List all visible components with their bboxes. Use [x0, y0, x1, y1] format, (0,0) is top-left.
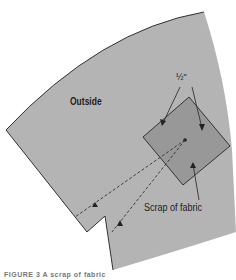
figure-caption: FIGURE 3 A scrap of fabric — [4, 271, 106, 278]
seam-allowance-label: ½" — [176, 72, 187, 82]
scrap-of-fabric-label: Scrap of fabric — [144, 202, 202, 213]
outside-label: Outside — [70, 96, 102, 107]
fabric-diagram — [0, 0, 236, 280]
diagram-canvas: Outside ½" Scrap of fabric FIGURE 3 A sc… — [0, 0, 236, 280]
